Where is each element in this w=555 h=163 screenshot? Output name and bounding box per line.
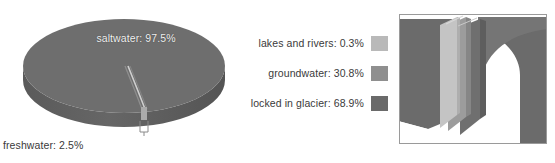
groundwater-slab-edge — [466, 17, 471, 117]
legend-item-groundwater[interactable]: groundwater: 30.8% — [240, 60, 388, 86]
freshwater-slice-label: freshwater: 2.5% — [3, 139, 83, 151]
magnified-slice-detail-panel — [399, 14, 547, 144]
legend-label: groundwater: 30.8% — [268, 67, 364, 79]
cutaway-floor-right — [486, 115, 520, 143]
freshwater-callout-leader — [122, 132, 144, 136]
freshwater-slice-edge — [141, 107, 147, 120]
legend-item-lakes-and-rivers[interactable]: lakes and rivers: 0.3% — [240, 30, 388, 56]
legend-item-locked-in-glacier[interactable]: locked in glacier: 68.9% — [240, 90, 388, 116]
legend-swatch-locked-in-glacier — [371, 96, 388, 111]
legend-label: locked in glacier: 68.9% — [251, 97, 364, 109]
detail-panel-svg — [400, 15, 546, 143]
locked-in-glacier-slab-edge — [480, 19, 486, 119]
lakes-and-rivers-slab-edge — [457, 17, 460, 115]
legend-label: lakes and rivers: 0.3% — [259, 37, 365, 49]
legend: lakes and rivers: 0.3% groundwater: 30.8… — [240, 30, 388, 120]
lakes-and-rivers-slab-face — [440, 17, 457, 128]
saltwater-slice-label: saltwater: 97.5% — [76, 32, 196, 44]
pie-chart-svg — [22, 8, 228, 136]
water-distribution-figure: saltwater: 97.5% freshwater: 2.5% lakes … — [0, 0, 555, 163]
legend-swatch-groundwater — [371, 66, 388, 81]
pie-chart-3d: saltwater: 97.5% — [22, 8, 228, 136]
legend-swatch-lakes-and-rivers — [371, 36, 388, 51]
